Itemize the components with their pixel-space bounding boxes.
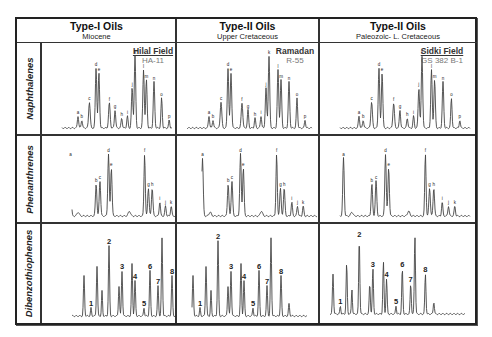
svg-text:n: n <box>442 76 445 81</box>
column-subtitle: Upper Cretaceous <box>176 32 319 41</box>
chromatogram-trace: 12345678 <box>42 224 175 323</box>
svg-text:1: 1 <box>338 297 342 306</box>
svg-text:a: a <box>342 152 345 157</box>
row-label-text: Dibenzothiophenes <box>24 230 35 318</box>
svg-text:o: o <box>160 92 163 97</box>
svg-text:n: n <box>288 76 291 81</box>
column-title: Type-II Oils <box>319 20 477 32</box>
svg-text:e: e <box>230 67 233 72</box>
svg-text:c: c <box>88 96 91 101</box>
svg-text:h: h <box>283 182 286 187</box>
svg-text:5: 5 <box>142 299 146 308</box>
svg-text:k: k <box>268 50 271 55</box>
svg-text:d: d <box>384 148 387 153</box>
svg-text:g: g <box>428 182 431 187</box>
row-label-phenanthrenes: Phenanthrenes <box>17 136 41 222</box>
svg-text:f: f <box>425 148 427 153</box>
svg-text:h: h <box>406 112 409 117</box>
chromatogram-trace: abcdefghijk <box>320 136 475 222</box>
column-header-type1: Type-I Oils Miocene <box>17 19 176 43</box>
svg-text:6: 6 <box>257 262 261 271</box>
column-title: Type-II Oils <box>176 20 319 32</box>
chromatogram-trace: abcdefghijklmnop <box>177 43 318 134</box>
svg-text:g: g <box>114 104 117 109</box>
svg-text:i: i <box>127 110 128 115</box>
svg-text:h: h <box>433 182 436 187</box>
svg-text:b: b <box>227 178 230 183</box>
svg-text:b: b <box>212 114 215 119</box>
svg-text:e: e <box>242 162 245 167</box>
svg-text:e: e <box>98 67 101 72</box>
chromatogram-trace: 12345678 <box>320 224 475 323</box>
chromatogram-phenanthrenes-type2-uc: abcdefghijk <box>177 136 318 222</box>
svg-text:8: 8 <box>279 267 283 276</box>
svg-text:b: b <box>81 114 84 119</box>
svg-text:6: 6 <box>400 260 404 269</box>
svg-text:m: m <box>433 74 437 79</box>
svg-text:g: g <box>147 182 150 187</box>
column-subtitle: Paleozoic- L. Cretaceous <box>319 32 477 41</box>
chromatogram-naphthalenes-type2-uc: abcdefghijklmnop <box>177 43 318 134</box>
svg-text:o: o <box>450 92 453 97</box>
row-label-naphthalenes: Naphthalenes <box>17 43 41 134</box>
chromatogram-naphthalenes-type1: abcdefghijklmnop <box>42 43 175 134</box>
chromatogram-naphthalenes-type2-pz: abcdefghijklmnop <box>320 43 475 134</box>
svg-text:7: 7 <box>409 275 413 284</box>
chromatogram-trace: 12345678 <box>177 224 318 323</box>
svg-text:1: 1 <box>198 299 202 308</box>
row-label-dibenzothiophenes: Dibenzothiophenes <box>17 224 41 323</box>
svg-text:b: b <box>371 178 374 183</box>
svg-text:h: h <box>151 182 154 187</box>
svg-text:g: g <box>399 104 402 109</box>
svg-text:k: k <box>302 200 305 205</box>
svg-text:i: i <box>413 110 414 115</box>
column-header-type2-upper-cretaceous: Type-II Oils Upper Cretaceous <box>176 19 319 43</box>
svg-text:f: f <box>276 148 278 153</box>
chromatogram-comparison-table: Type-I Oils Miocene Type-II Oils Upper C… <box>15 17 477 325</box>
svg-text:k: k <box>134 50 137 55</box>
svg-text:g: g <box>247 104 250 109</box>
column-header-type2-paleozoic: Type-II Oils Paleozoic- L. Cretaceous <box>319 19 477 43</box>
svg-text:6: 6 <box>148 262 152 271</box>
chromatogram-dibenzothiophenes-type1: 12345678 <box>42 224 175 323</box>
svg-text:5: 5 <box>394 297 398 306</box>
chromatogram-trace: abcdefghijk <box>177 136 318 222</box>
svg-text:2: 2 <box>216 232 220 241</box>
svg-text:a: a <box>201 152 204 157</box>
svg-text:7: 7 <box>156 277 160 286</box>
svg-text:4: 4 <box>242 272 247 281</box>
svg-text:l: l <box>431 64 432 69</box>
chromatogram-trace: abcdefghijk <box>42 136 175 222</box>
svg-text:3: 3 <box>371 260 375 269</box>
chromatogram-dibenzothiophenes-type2-uc: 12345678 <box>177 224 318 323</box>
svg-text:8: 8 <box>170 267 174 276</box>
svg-text:d: d <box>239 148 242 153</box>
svg-text:7: 7 <box>265 277 269 286</box>
svg-text:f: f <box>241 97 243 102</box>
chromatogram-phenanthrenes-type1: abcdefghijk <box>42 136 175 222</box>
column-title: Type-I Oils <box>17 20 176 32</box>
svg-text:b: b <box>95 178 98 183</box>
svg-text:m: m <box>145 74 149 79</box>
svg-text:c: c <box>375 175 378 180</box>
svg-text:k: k <box>454 200 457 205</box>
svg-text:f: f <box>144 148 146 153</box>
svg-text:i: i <box>291 196 292 201</box>
svg-text:a: a <box>208 110 211 115</box>
svg-text:a: a <box>69 152 72 157</box>
column-subtitle: Miocene <box>17 32 176 41</box>
svg-text:m: m <box>279 74 283 79</box>
row-label-text: Naphthalenes <box>24 57 35 119</box>
svg-text:h: h <box>120 112 123 117</box>
chromatogram-trace: abcdefghijklmnop <box>320 43 475 134</box>
svg-text:i: i <box>159 196 160 201</box>
svg-text:g: g <box>279 182 282 187</box>
svg-text:f: f <box>109 97 111 102</box>
svg-text:k: k <box>170 200 173 205</box>
svg-text:j: j <box>296 200 298 205</box>
svg-text:3: 3 <box>229 262 233 271</box>
svg-text:5: 5 <box>251 299 255 308</box>
svg-text:d: d <box>107 148 110 153</box>
chromatogram-trace: abcdefghijklmnop <box>42 43 175 134</box>
svg-text:o: o <box>296 92 299 97</box>
